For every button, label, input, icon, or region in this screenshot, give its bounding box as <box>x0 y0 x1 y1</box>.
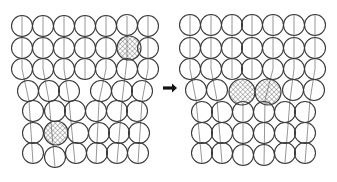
atom <box>66 143 87 164</box>
after-lattice-panel <box>180 15 326 166</box>
atom <box>89 123 110 144</box>
atom <box>23 101 44 122</box>
atom <box>212 102 233 123</box>
atom <box>39 81 60 102</box>
atom <box>295 123 316 144</box>
atom <box>304 80 325 101</box>
atom <box>132 81 153 102</box>
foreign-atom <box>117 36 141 60</box>
atom <box>127 101 148 122</box>
atom <box>275 123 296 144</box>
atom <box>283 80 304 101</box>
atom <box>65 101 86 122</box>
atom <box>68 123 89 144</box>
atom <box>295 102 316 123</box>
atom <box>186 80 207 101</box>
atom <box>129 123 150 144</box>
foreign-atom <box>229 79 255 105</box>
lattice-diagram <box>0 0 337 182</box>
foreign-atom <box>255 79 281 105</box>
atom <box>86 101 107 122</box>
atom <box>23 123 44 144</box>
before-lattice-panel <box>12 15 159 168</box>
atom <box>275 102 296 123</box>
atom <box>45 101 66 122</box>
atom <box>192 123 213 144</box>
atom <box>107 101 128 122</box>
atom <box>207 80 228 101</box>
right-arrow-icon <box>163 84 177 93</box>
atom <box>212 123 233 144</box>
atom <box>192 102 213 123</box>
foreign-atom <box>44 121 68 145</box>
